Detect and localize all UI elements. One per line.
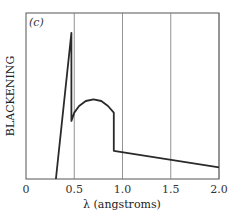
chart: 00.51.01.52.0 (c) λ (angstroms) BLACKENI… xyxy=(0,0,233,217)
x-tick-label: 1.0 xyxy=(114,183,132,196)
x-tick-label: 0.5 xyxy=(66,183,84,196)
x-tick-label: 0 xyxy=(23,183,30,196)
x-tick-labels: 00.51.01.52.0 xyxy=(23,183,228,196)
x-tick-label: 2.0 xyxy=(210,183,228,196)
x-tick-label: 1.5 xyxy=(162,183,180,196)
blackening-curve xyxy=(56,33,219,179)
y-axis-label: BLACKENING xyxy=(4,56,17,136)
x-axis-label: λ (angstroms) xyxy=(83,198,161,211)
panel-label: (c) xyxy=(29,16,44,29)
gridlines xyxy=(74,13,219,179)
